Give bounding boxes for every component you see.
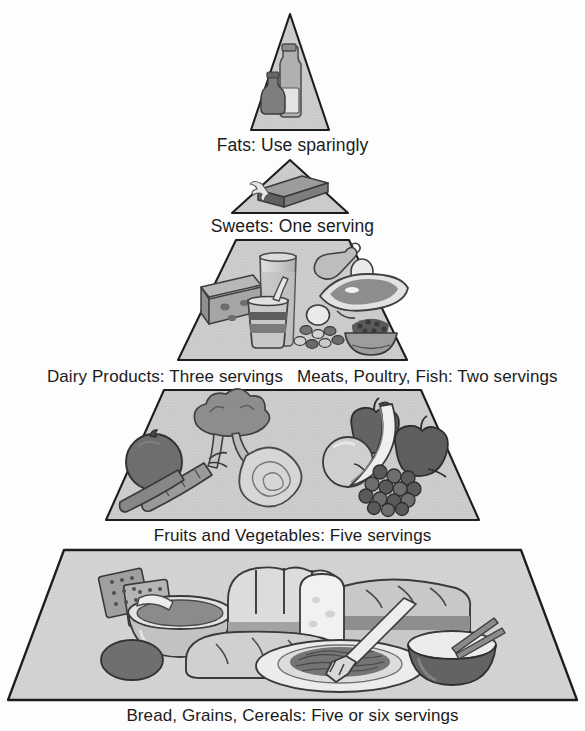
egg-icon <box>307 305 330 325</box>
pyramid-graphic <box>0 0 585 731</box>
tier-1-label: Fats: Use sparingly <box>0 137 585 155</box>
tier-1-fats-shape <box>251 14 329 130</box>
tier-5-bread-grains-shape <box>8 550 577 700</box>
tier-3-dairy-meats-shape <box>178 240 408 360</box>
dinner-roll-icon <box>101 640 163 680</box>
tier-5-label: Bread, Grains, Cereals: Five or six serv… <box>0 707 585 724</box>
tier-4-label: Fruits and Vegetables: Five servings <box>0 527 585 544</box>
tier-2-sweets-shape <box>232 160 348 213</box>
tier-2-label: Sweets: One serving <box>0 218 585 236</box>
food-pyramid-figure: Fats: Use sparingly Sweets: One serving … <box>0 0 585 731</box>
tier-3-dairy-label: Dairy Products: Three servings <box>0 368 283 385</box>
tier-3-meats-label: Meats, Poultry, Fish: Two servings <box>297 368 585 385</box>
tier-4-fruits-vegetables-shape <box>106 389 479 520</box>
